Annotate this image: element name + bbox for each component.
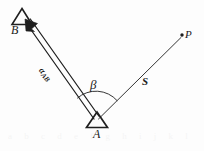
label-station-b: B (11, 24, 18, 36)
angle-beta-arc (78, 91, 118, 100)
point-p-dot-icon (180, 33, 183, 36)
baseline-ab-double-line (26, 19, 99, 119)
label-point-p: P (185, 29, 192, 40)
diagram-canvas (0, 0, 204, 151)
scan-artifact-ghost-text: a b c d e f g h i j k l m n (8, 131, 196, 142)
label-distance-s: S (142, 76, 148, 87)
sideline-ap-stroke (99, 38, 182, 120)
label-angle-beta: β (90, 78, 96, 91)
baseline-ab-stroke-left (26, 22, 95, 119)
survey-diagram-figure: B A P S β αAB a b c d e f g h i j k l m … (0, 0, 204, 151)
